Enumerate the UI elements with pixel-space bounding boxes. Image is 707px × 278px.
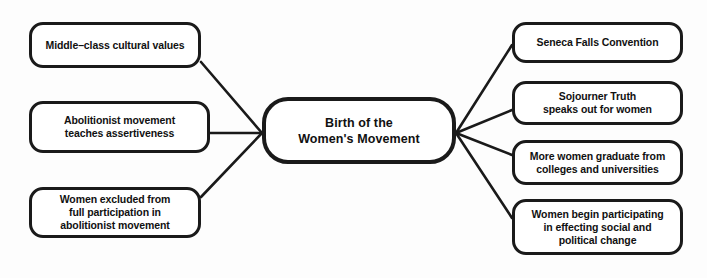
- cause-node-label: Middle–class cultural values: [39, 39, 190, 52]
- central-node-label: Birth of the Women's Movement: [292, 115, 426, 147]
- connector-center-to-effect-0: [456, 45, 512, 133]
- cause-node-women-excluded[interactable]: Women excluded from full participation i…: [29, 187, 201, 238]
- concept-map-diagram: Middle–class cultural values Abolitionis…: [0, 0, 707, 278]
- effect-node-more-women-graduate[interactable]: More women graduate from colleges and un…: [512, 140, 683, 185]
- effect-node-label: Women begin participating in effecting s…: [525, 208, 669, 247]
- connector-center-to-effect-3: [456, 133, 512, 218]
- effect-node-label: Sojourner Truth speaks out for women: [537, 90, 658, 116]
- cause-node-label: Abolitionist movement teaches assertiven…: [58, 114, 181, 140]
- connector-cause-0-to-center: [201, 62, 262, 133]
- connector-cause-2-to-center: [201, 133, 262, 197]
- cause-node-label: Women excluded from full participation i…: [54, 193, 177, 232]
- cause-node-middle-class-cultural-values[interactable]: Middle–class cultural values: [29, 22, 201, 68]
- effect-node-label: Seneca Falls Convention: [531, 36, 665, 49]
- central-node-birth-of-womens-movement[interactable]: Birth of the Women's Movement: [262, 97, 456, 164]
- effect-node-label: More women graduate from colleges and un…: [524, 150, 671, 176]
- effect-node-women-begin-participating[interactable]: Women begin participating in effecting s…: [512, 199, 683, 255]
- cause-node-abolitionist-movement[interactable]: Abolitionist movement teaches assertiven…: [29, 101, 210, 153]
- effect-node-sojourner-truth[interactable]: Sojourner Truth speaks out for women: [512, 81, 683, 125]
- effect-node-seneca-falls-convention[interactable]: Seneca Falls Convention: [512, 22, 683, 63]
